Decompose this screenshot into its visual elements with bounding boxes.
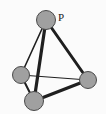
graph-node-b <box>25 92 44 111</box>
graph-node-l <box>13 67 30 84</box>
figure-container: P <box>0 0 106 114</box>
graph-node-r <box>80 72 97 89</box>
graph-node-p <box>37 11 56 30</box>
labels-layer: P <box>58 11 64 23</box>
node-label-p: P <box>58 11 64 23</box>
graph-canvas: P <box>0 0 106 114</box>
